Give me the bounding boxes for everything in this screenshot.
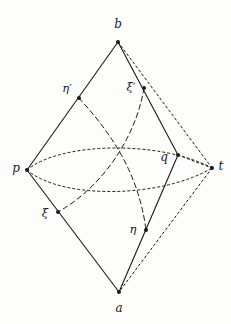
solid-edge-layer: [27, 42, 178, 292]
vertex-dot-eta: [144, 228, 148, 232]
vertex-label-t: t: [219, 160, 224, 172]
vertex-label-q: q: [160, 151, 168, 163]
curve-xiprime-xi: [58, 88, 144, 212]
vertex-label-xi: ξ: [42, 208, 48, 220]
vertex-dot-p: [25, 168, 29, 172]
figure-canvas: [0, 0, 231, 324]
vertex-label-p: p: [12, 162, 20, 174]
vertex-dot-xiprime: [142, 86, 146, 90]
dotted-edge-layer: [27, 42, 212, 292]
vertex-dot-q: [176, 153, 180, 157]
vertex-label-eta: η: [130, 224, 137, 236]
vertex-dot-xi: [56, 210, 60, 214]
vertex-dot-a: [117, 290, 121, 294]
arc-p-t-lower: [27, 168, 212, 192]
vertex-dot-t: [210, 166, 214, 170]
dashed-curve-layer: [58, 88, 146, 230]
vertex-label-b: b: [114, 18, 122, 30]
edge-q-eta-a: [119, 155, 178, 292]
vertex-label-etaprime: η′: [62, 83, 72, 95]
vertex-label-a: a: [115, 302, 122, 314]
vertex-dot-etaprime: [77, 96, 81, 100]
vertex-label-xiprime: ξ′: [127, 82, 136, 94]
vertex-dot-b: [116, 40, 120, 44]
vertex-dot-layer: [25, 40, 214, 294]
edge-b-etaprime-p: [27, 42, 118, 170]
geometric-figure: bptaη′ξ′qξη: [0, 0, 231, 324]
